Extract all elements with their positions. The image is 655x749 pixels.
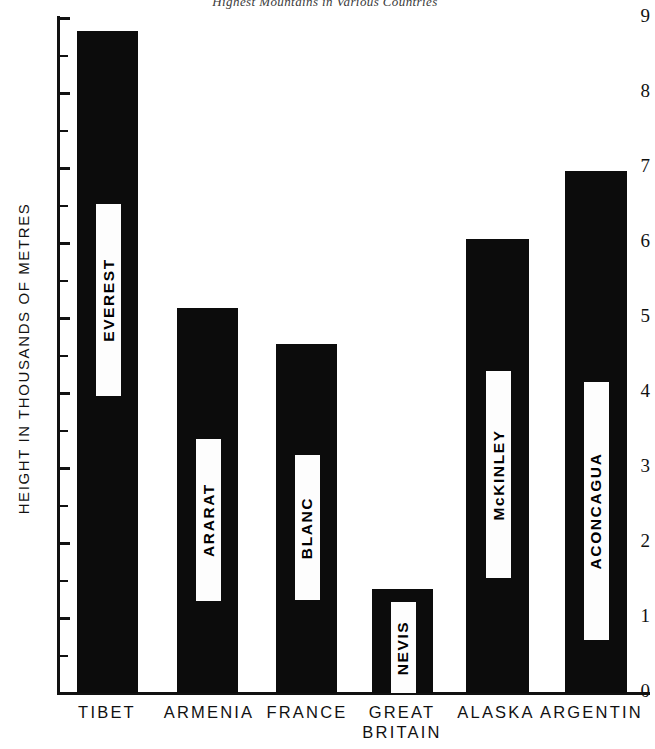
bar-label-ararat: ARARAT [200, 483, 218, 557]
bar-label-box-mckinley: McKINLEY [486, 371, 511, 578]
bar-label-box-ararat: ARARAT [196, 439, 221, 601]
bar-label-blanc: BLANC [299, 496, 317, 558]
bar-label-mckinley: McKINLEY [490, 429, 508, 520]
bar-label-everest: EVEREST [100, 258, 118, 342]
bar-label-aconcagua: ACONCAGUA [588, 453, 606, 570]
x-category-armenia-line1: ARMENIA [164, 703, 255, 721]
bar-label-box-everest: EVEREST [96, 204, 121, 396]
x-category-alaska-line1: ALASKA [457, 703, 534, 721]
x-category-great-britain-line2: BRITAIN [353, 722, 451, 742]
x-category-france-line1: FRANCE [266, 703, 347, 721]
bar-label-nevis: NEVIS [395, 620, 413, 675]
x-category-great-britain-line1: GREAT [369, 703, 436, 721]
x-category-great-britain: GREAT BRITAIN [353, 702, 451, 742]
x-category-armenia: ARMENIA [155, 702, 263, 722]
x-category-argentina: ARGENTIN [540, 702, 655, 722]
x-category-alaska: ALASKA [446, 702, 546, 722]
x-category-tibet-line1: TIBET [78, 703, 136, 721]
bar-label-box-nevis: NEVIS [391, 602, 416, 693]
x-category-france: FRANCE [258, 702, 356, 722]
bar-label-box-blanc: BLANC [295, 455, 320, 600]
x-category-tibet: TIBET [57, 702, 157, 722]
x-category-argentina-line1: ARGENTIN [540, 703, 643, 721]
bar-label-box-aconcagua: ACONCAGUA [584, 382, 609, 640]
